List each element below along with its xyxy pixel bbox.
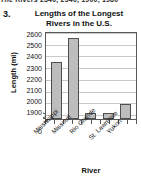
y-tick-label: 2100 xyxy=(18,87,42,94)
y-tick-label: 2500 xyxy=(18,42,42,49)
chart-title: Lengths of the Longest Rivers in the U.S… xyxy=(20,9,138,29)
bar xyxy=(120,104,131,119)
y-axis-tick-labels: 260025002400230022002100200019000 xyxy=(18,31,42,123)
y-tick-label: 2200 xyxy=(18,76,42,83)
y-tick-label: 1900 xyxy=(18,109,42,116)
y-tick-label: 2600 xyxy=(18,31,42,38)
clipped-text-fragment: The Rivers 2340, 2540, 1900, 1980 xyxy=(0,0,141,4)
y-axis-label: Length (mi) xyxy=(9,50,18,96)
y-tick-label: 2400 xyxy=(18,53,42,60)
problem-number: 3. xyxy=(3,9,11,19)
chart-title-line-2: Rivers in the U.S. xyxy=(20,19,138,29)
chart-title-line-1: Lengths of the Longest xyxy=(35,9,123,18)
y-tick-label: 2300 xyxy=(18,65,42,72)
bar xyxy=(68,38,79,119)
chart-page: The Rivers 2340, 2540, 1900, 1980 3. Len… xyxy=(0,0,141,180)
x-axis-category-labels: MississippiMissouriRio GrandeSt. Lawrenc… xyxy=(30,124,141,160)
x-axis-label: River xyxy=(45,166,137,175)
y-tick-label: 2000 xyxy=(18,98,42,105)
